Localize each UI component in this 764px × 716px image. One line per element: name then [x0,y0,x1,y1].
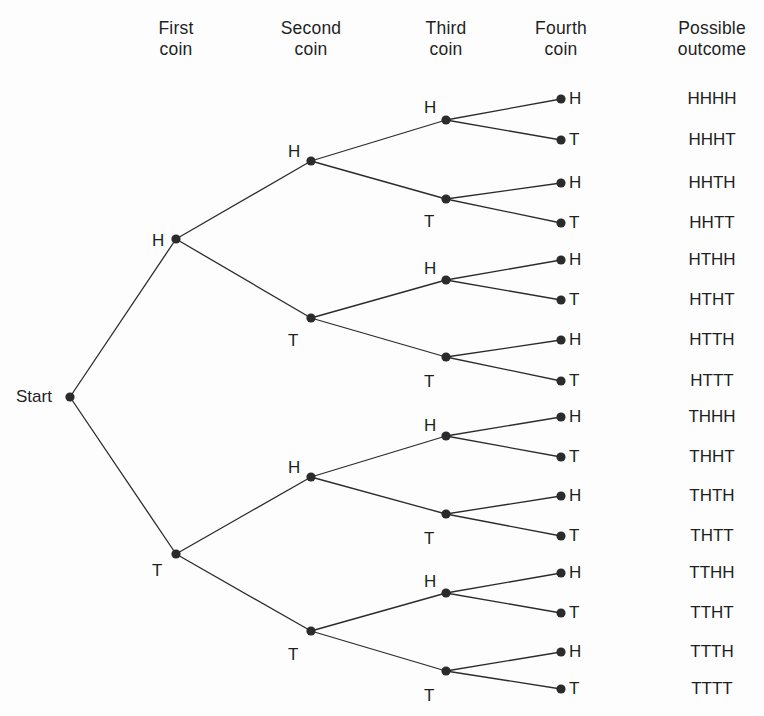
node-TTT [441,666,450,675]
node-HHH [441,115,450,124]
leaf-label-HTHT: T [569,291,579,308]
column-header-third-coin: Thirdcoin [386,18,506,60]
column-header-line1: Fourth [535,18,587,38]
column-header-line1: Possible [678,18,746,38]
leaf-label-THHT: T [569,448,579,465]
outcome-TTTT: TTTT [667,680,757,697]
edge-TH-THH [311,436,446,477]
edge-T-TT [176,554,311,631]
edge-HTT-HTTH [446,340,561,357]
node-TH [306,472,315,481]
edge-TTT-TTTH [446,652,561,671]
node-TTTT [556,684,565,693]
edge-THH-THHT [446,436,561,457]
edge-HTH-HTHT [446,280,561,300]
leaf-label-TTHH: H [569,564,581,581]
outcome-HHTH: HHTH [667,174,757,191]
node-HHHH [556,94,565,103]
column-header-first-coin: Firstcoin [116,18,236,60]
column-header-second-coin: Secondcoin [251,18,371,60]
node-label-T: T [152,562,162,579]
node-TTHH [556,568,565,577]
outcome-TTHT: TTHT [667,604,757,621]
leaf-label-THTH: H [569,487,581,504]
leaf-label-TTTT: T [569,680,579,697]
node-HTT [441,352,450,361]
node-label-TTH: H [424,573,436,590]
outcome-HTHH: HTHH [667,251,757,268]
outcome-HTTH: HTTH [667,331,757,348]
column-header-line1: Third [426,18,467,38]
node-start [65,392,74,401]
leaf-label-HHHT: T [569,131,579,148]
node-HHT [441,194,450,203]
edge-HH-HHH [311,120,446,161]
edge-HHH-HHHT [446,120,561,140]
node-HTHT [556,295,565,304]
node-TTH [441,588,450,597]
node-label-HT: T [288,332,298,349]
leaf-label-THTT: T [569,527,579,544]
tree-nodes [65,94,565,693]
column-header-line2: outcome [678,39,747,59]
edge-THT-THTT [446,514,561,536]
node-THTH [556,491,565,500]
column-header-line2: coin [295,39,328,59]
node-T [171,549,180,558]
node-HHTT [556,218,565,227]
leaf-label-HHTH: H [569,174,581,191]
outcome-THTT: THTT [667,527,757,544]
leaf-label-THHH: H [569,408,581,425]
outcome-HTHT: HTHT [667,291,757,308]
node-TTHT [556,608,565,617]
node-THHT [556,452,565,461]
node-label-THT: T [424,530,434,547]
edge-HTH-HTHH [446,260,561,280]
edge-HTT-HTTT [446,357,561,381]
edge-TT-TTH [311,593,446,631]
node-label-HTT: T [424,373,434,390]
node-HH [306,156,315,165]
node-HTHH [556,255,565,264]
edge-HHH-HHHH [446,99,561,120]
node-THH [441,431,450,440]
node-label-HHH: H [424,99,436,116]
edge-TH-THT [311,477,446,514]
leaf-label-TTHT: T [569,604,579,621]
node-THTT [556,531,565,540]
node-TTTH [556,647,565,656]
node-label-H: H [152,232,164,249]
node-label-TTT: T [424,687,434,704]
column-header-line2: coin [160,39,193,59]
node-THT [441,509,450,518]
column-header-fourth-coin: Fourthcoin [501,18,621,60]
outcome-THTH: THTH [667,487,757,504]
edge-TTH-TTHH [446,573,561,593]
column-header-line1: First [158,18,193,38]
edge-start-T [70,397,176,554]
edge-TTT-TTTT [446,671,561,689]
node-label-THH: H [424,417,436,434]
tree-edges [70,99,561,689]
leaf-label-TTTH: H [569,643,581,660]
node-HT [306,313,315,322]
edge-HT-HTH [311,280,446,318]
node-label-HH: H [288,143,300,160]
leaf-label-HTHH: H [569,251,581,268]
column-header-line1: Second [281,18,342,38]
outcome-THHH: THHH [667,408,757,425]
edge-HH-HHT [311,161,446,199]
column-header-possible-outcome: Possibleoutcome [652,18,764,60]
outcome-THHT: THHT [667,448,757,465]
edge-THT-THTH [446,496,561,514]
outcome-HTTT: HTTT [667,372,757,389]
node-TT [306,626,315,635]
node-HHTH [556,178,565,187]
node-label-TT: T [288,646,298,663]
outcome-HHTT: HHTT [667,214,757,231]
node-HHHT [556,135,565,144]
column-header-line2: coin [430,39,463,59]
node-HTTH [556,335,565,344]
node-label-TH: H [288,459,300,476]
edge-TTH-TTHT [446,593,561,613]
